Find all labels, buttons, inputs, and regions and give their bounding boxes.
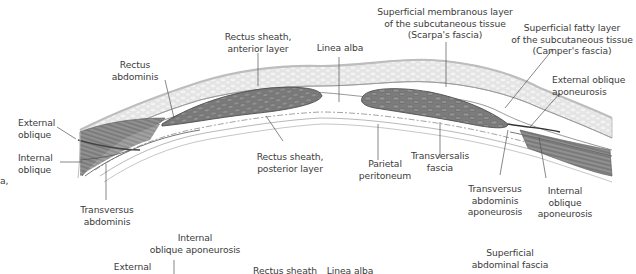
label-transversus-abdominis: Transversusabdominis — [72, 204, 142, 227]
label-internal-oblique-aponeurosis-bottom: Internaloblique aponeurosis — [140, 232, 250, 255]
label-transversalis-fascia: Transversalisfascia — [405, 150, 475, 173]
label-scarpas-fascia: Superficial membranous layerof the subcu… — [375, 6, 515, 41]
label-fragment: a, — [0, 175, 8, 187]
label-external-bottom: External — [105, 261, 160, 273]
label-superficial-abdominal-fascia: Superficialabdominal fascia — [465, 247, 555, 270]
label-linea-alba-bottom: Linea alba — [320, 265, 380, 274]
label-linea-alba: Linea alba — [305, 42, 375, 54]
label-rectus-sheath-bottom: Rectus sheath — [245, 265, 325, 274]
label-external-oblique-aponeurosis: External obliqueaponeurosis — [552, 74, 625, 97]
label-transversus-abdominis-aponeurosis: Transversusabdominisaponeurosis — [460, 183, 530, 218]
label-rectus-abdominis: Rectusabdominis — [100, 59, 170, 82]
label-internal-oblique-aponeurosis: Internalobliqueaponeurosis — [530, 185, 600, 220]
label-internal-oblique: Internaloblique — [18, 152, 53, 175]
label-external-oblique: Externaloblique — [18, 117, 55, 140]
label-rectus-sheath-posterior-layer: Rectus sheath,posterior layer — [245, 151, 335, 174]
label-campers-fascia: Superficial fatty layerof the subcutaneo… — [508, 22, 636, 57]
label-rectus-sheath-anterior-layer: Rectus sheath,anterior layer — [213, 31, 303, 54]
